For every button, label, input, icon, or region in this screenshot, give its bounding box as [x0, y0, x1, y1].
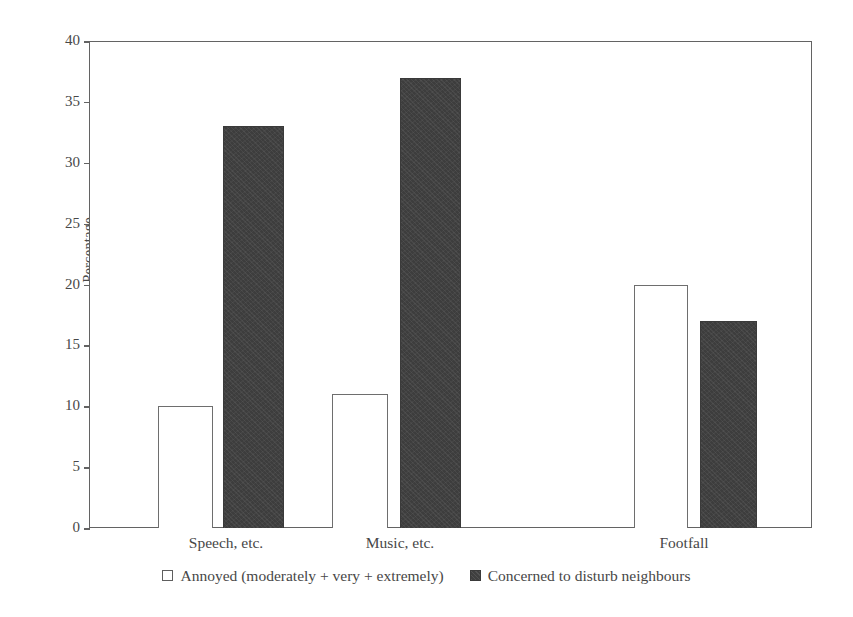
legend-label: Concerned to disturb neighbours	[488, 568, 691, 584]
open-square-icon	[162, 570, 173, 581]
bar-annoyed-1	[332, 394, 388, 528]
x-axis-category-label: Music, etc.	[290, 534, 510, 552]
bar-concerned-1	[400, 78, 461, 528]
filled-square-icon	[470, 570, 481, 581]
bar-chart-figure: Percentage 4035302520151050 Speech, etc.…	[0, 0, 853, 617]
bar-concerned-2	[700, 321, 757, 528]
legend-item-concerned[interactable]: Concerned to disturb neighbours	[470, 568, 691, 584]
legend-label: Annoyed (moderately + very + extremely)	[180, 568, 443, 584]
bar-annoyed-2	[634, 285, 688, 529]
legend-item-annoyed[interactable]: Annoyed (moderately + very + extremely)	[162, 568, 443, 584]
bars-layer: Speech, etc.Music, etc.Footfall	[0, 0, 853, 617]
bar-concerned-0	[223, 126, 284, 528]
chart-legend: Annoyed (moderately + very + extremely) …	[0, 568, 853, 584]
x-axis-category-label: Footfall	[574, 534, 794, 552]
bar-annoyed-0	[158, 406, 213, 528]
